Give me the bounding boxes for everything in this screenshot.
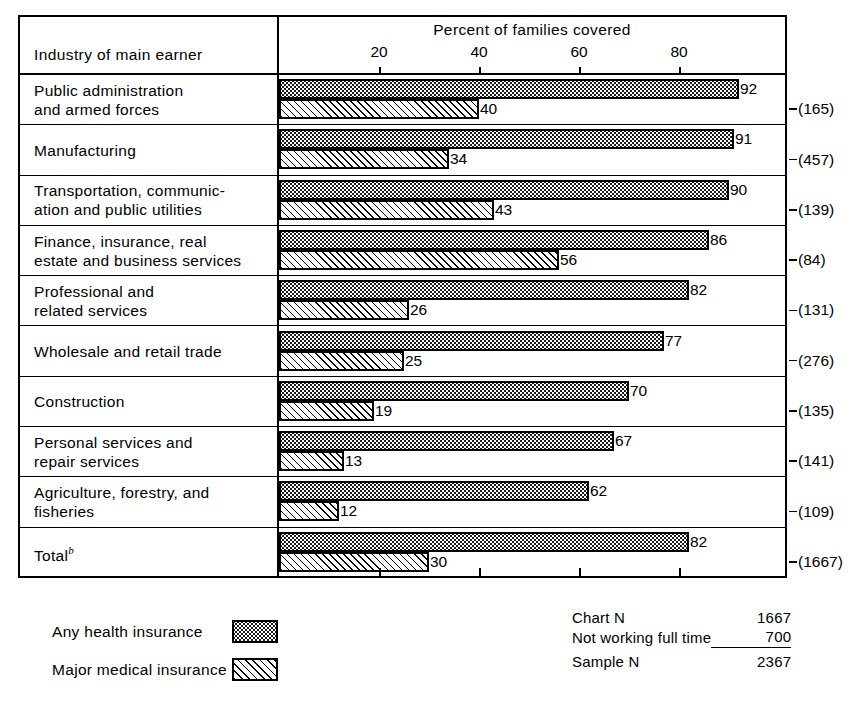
chart-row: Agriculture, forestry, andfisheries6212 (20, 477, 785, 527)
bar-major-medical-insurance: 12 (279, 501, 339, 521)
chart-row: Totalb8230 (20, 528, 785, 578)
row-label: Finance, insurance, realestate and busin… (34, 232, 274, 270)
label-column-header: Industry of main earner (34, 46, 203, 64)
bar-major-medical-insurance: 25 (279, 351, 404, 371)
bar-value-any: 67 (615, 432, 632, 450)
bar-major-medical-insurance: 40 (279, 99, 479, 119)
bar-any-health-insurance: 91 (279, 129, 734, 149)
legend-label: Any health insurance (52, 623, 203, 641)
x-tick-mark-bottom-40 (479, 568, 481, 576)
bar-value-major: 25 (405, 352, 422, 370)
chart-row: Wholesale and retail trade7725 (20, 327, 785, 377)
sample-size-label: (131) (789, 301, 834, 319)
x-tick-label-20: 20 (359, 43, 399, 61)
sample-size-label: (276) (789, 352, 834, 370)
row-label: Agriculture, forestry, andfisheries (34, 483, 274, 521)
bar-major-medical-insurance: 30 (279, 552, 429, 572)
tick-dash-icon (789, 159, 797, 161)
tick-dash-icon (789, 108, 797, 110)
legend-label: Major medical insurance (52, 661, 227, 679)
summary-table: Chart N 1667 Not working full time 700 S… (572, 608, 791, 671)
legend-swatch-dotted (232, 620, 278, 643)
chart-row: Personal services andrepair services6713 (20, 427, 785, 477)
bar-any-health-insurance: 82 (279, 280, 689, 300)
bar-value-major: 13 (345, 452, 362, 470)
summary-row-chart-n: Chart N 1667 (572, 608, 791, 627)
bar-value-any: 86 (710, 231, 727, 249)
sample-size-label: (165) (789, 100, 834, 118)
x-tick-mark-80 (679, 67, 681, 75)
sample-size-label: (109) (789, 503, 834, 521)
not-working-value: 700 (711, 627, 791, 648)
x-tick-mark-40 (479, 67, 481, 75)
bar-value-any: 90 (730, 181, 747, 199)
chart-row: Construction7019 (20, 377, 785, 427)
x-axis-title: Percent of families covered (277, 21, 787, 39)
sample-size-column: (165)(457)(139)(84)(131)(276)(135)(141)(… (789, 15, 867, 578)
bar-value-any: 77 (665, 332, 682, 350)
bar-major-medical-insurance: 34 (279, 149, 449, 169)
chart-n-label: Chart N (572, 608, 711, 627)
tick-dash-icon (789, 259, 797, 261)
not-working-label: Not working full time (572, 627, 711, 648)
sample-size-label: (141) (789, 452, 834, 470)
bar-value-major: 34 (450, 150, 467, 168)
chart-header-row: Industry of main earner Percent of famil… (20, 17, 785, 75)
tick-dash-icon (789, 511, 797, 513)
tick-dash-icon (789, 310, 797, 312)
chart-row: Public administrationand armed forces924… (20, 75, 785, 125)
legend-swatch-hatched (232, 658, 278, 681)
sample-size-value: (139) (798, 201, 834, 218)
bar-major-medical-insurance: 19 (279, 401, 374, 421)
sample-size-value: (1667) (798, 553, 843, 570)
x-tick-mark-bottom-20 (379, 568, 381, 576)
row-label: Totalb (34, 541, 274, 564)
bar-value-major: 26 (410, 301, 427, 319)
chart-n-value: 1667 (711, 608, 791, 627)
bar-value-any: 62 (590, 482, 607, 500)
sample-size-value: (135) (798, 402, 834, 419)
tick-dash-icon (789, 410, 797, 412)
row-label: Manufacturing (34, 140, 274, 159)
x-tick-label-60: 60 (559, 43, 599, 61)
sample-size-value: (276) (798, 352, 834, 369)
bar-any-health-insurance: 67 (279, 431, 614, 451)
x-tick-mark-20 (379, 67, 381, 75)
row-label: Professional andrelated services (34, 282, 274, 320)
chart-table-frame: Industry of main earner Percent of famil… (18, 15, 787, 578)
bar-value-any: 82 (690, 533, 707, 551)
sample-size-value: (109) (798, 503, 834, 520)
tick-dash-icon (789, 460, 797, 462)
tick-dash-icon (789, 561, 797, 563)
bar-value-major: 12 (340, 502, 357, 520)
bar-any-health-insurance: 77 (279, 331, 664, 351)
tick-dash-icon (789, 360, 797, 362)
x-tick-mark-bottom-60 (579, 568, 581, 576)
x-tick-mark-bottom-80 (679, 568, 681, 576)
row-label: Construction (34, 392, 274, 411)
x-tick-label-80: 80 (659, 43, 699, 61)
sample-size-label: (84) (789, 251, 826, 269)
row-label: Personal services andrepair services (34, 433, 274, 471)
chart-row: Transportation, communic-ation and publi… (20, 176, 785, 226)
sample-size-value: (457) (798, 151, 834, 168)
summary-row-sample-n: Sample N 2367 (572, 648, 791, 672)
bar-value-any: 92 (740, 80, 757, 98)
row-label: Wholesale and retail trade (34, 342, 274, 361)
chart-row: Finance, insurance, realestate and busin… (20, 226, 785, 276)
sample-n-label: Sample N (572, 648, 711, 672)
bar-any-health-insurance: 92 (279, 79, 739, 99)
chart-row: Professional andrelated services8226 (20, 276, 785, 326)
bar-major-medical-insurance: 56 (279, 250, 559, 270)
bar-any-health-insurance: 62 (279, 481, 589, 501)
sample-size-label: (135) (789, 402, 834, 420)
bar-value-major: 30 (430, 553, 447, 571)
x-tick-mark-60 (579, 67, 581, 75)
bar-any-health-insurance: 86 (279, 230, 709, 250)
bar-any-health-insurance: 82 (279, 532, 689, 552)
bar-value-major: 40 (480, 100, 497, 118)
bar-value-major: 43 (495, 201, 512, 219)
bar-major-medical-insurance: 13 (279, 451, 344, 471)
bar-value-major: 19 (375, 402, 392, 420)
sample-size-label: (139) (789, 201, 834, 219)
